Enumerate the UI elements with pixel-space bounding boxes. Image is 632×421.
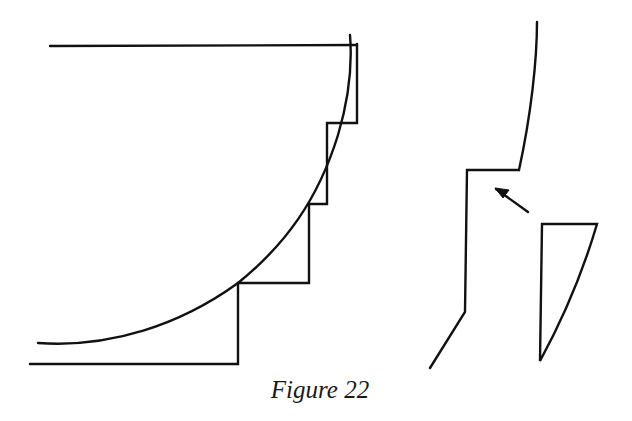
top-line [50, 45, 357, 46]
notched-profile [430, 22, 537, 368]
arrow-icon [495, 188, 528, 212]
notched-profile-diagram [430, 22, 597, 368]
stepped-arc-diagram [30, 35, 357, 364]
circular-arc [38, 35, 351, 344]
figure-caption: Figure 22 [0, 376, 632, 404]
wedge-piece [540, 224, 597, 361]
figure-22-diagram [0, 0, 632, 421]
